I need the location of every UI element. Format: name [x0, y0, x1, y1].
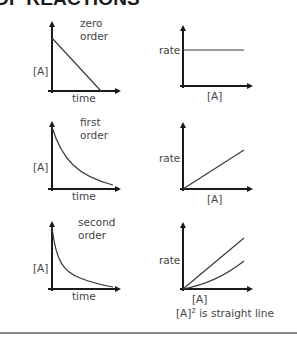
rate-vs-a-squared-line: [183, 238, 244, 289]
conc-x-label: [A]: [207, 90, 222, 103]
conc-y-label: [A]: [33, 262, 48, 275]
bottom-divider: [0, 332, 297, 334]
first-order-rate-plot: [180, 125, 250, 191]
straight-line-note: [A]2 is straight line: [176, 307, 274, 320]
conc-x-label: [A]: [207, 193, 222, 206]
order-label-line2: order: [80, 30, 108, 43]
rate-vs-a-curve: [183, 261, 244, 289]
order-label-line2: order: [80, 129, 108, 142]
rate-y-label: rate: [159, 44, 180, 57]
rate-y-label: rate: [159, 254, 180, 267]
time-x-label: time: [72, 92, 96, 105]
conc-y-label: [A]: [33, 161, 48, 174]
second-order-rate-plot: [180, 225, 250, 291]
conc-y-label: [A]: [33, 65, 48, 78]
time-x-label: time: [72, 290, 96, 303]
order-label-line2: order: [78, 229, 115, 242]
order-label-line1: zero: [80, 17, 108, 30]
zero-order-label: zero order: [80, 17, 108, 43]
conc-x-label: [A]: [192, 293, 207, 306]
zero-order-rate-plot: [180, 28, 250, 88]
first-order-label: first order: [80, 116, 108, 142]
order-label-line1: second: [78, 216, 115, 229]
order-label-line1: first: [80, 116, 108, 129]
second-order-label: second order: [78, 216, 115, 242]
rate-y-label: rate: [159, 152, 180, 165]
linear-decrease-line: [52, 38, 101, 91]
time-x-label: time: [72, 190, 96, 203]
linear-rate-line: [183, 150, 244, 189]
